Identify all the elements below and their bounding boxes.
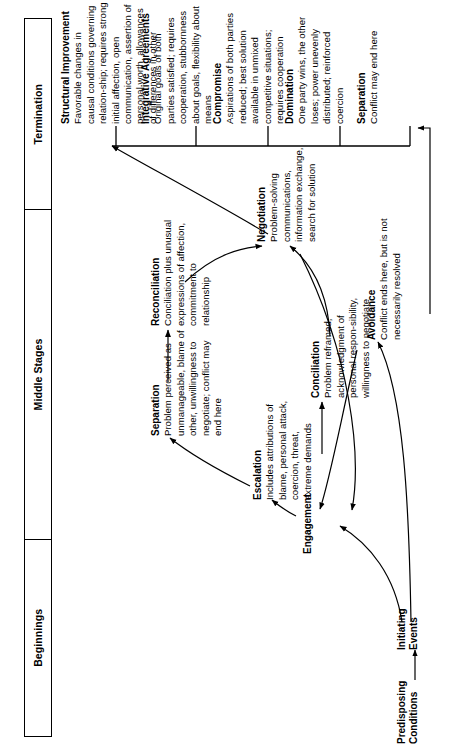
- node-escalation: Escalation Includes attributions of blam…: [252, 400, 314, 500]
- arrow-engagement-to-escalation: [272, 500, 296, 516]
- negotiation-body: Problem-solving communications, informat…: [268, 130, 318, 242]
- arrow-initiating-to-engagement: [340, 526, 402, 622]
- node-domination: Domination One party wins, the other los…: [284, 2, 346, 124]
- integrative-agreements-title: Integrative Agreements: [140, 2, 152, 124]
- node-initiating-events: Initiating Events: [396, 592, 421, 650]
- avoidance-title: Avoidance: [366, 190, 378, 340]
- integrative-agreements-body: Original goals of both parties satisfied…: [152, 2, 214, 124]
- negotiation-title: Negotiation: [256, 130, 268, 242]
- node-conciliation: Conciliation Problem reframed, acknowled…: [310, 290, 372, 398]
- domination-body: One party wins, the other loses; power u…: [296, 2, 346, 124]
- escalation-body: Includes attributions of blame, personal…: [264, 400, 314, 500]
- conciliation-body: Problem reframed, acknowledgment of pers…: [322, 290, 372, 398]
- separation-termination-title: Separation: [356, 2, 368, 124]
- node-avoidance: Avoidance Conflict ends here, but is not…: [366, 190, 403, 340]
- initiating-line-2: Events: [408, 592, 420, 650]
- reconciliation-title: Reconciliation: [150, 214, 162, 326]
- node-integrative-agreements: Integrative Agreements Original goals of…: [140, 2, 214, 124]
- arrow-avoidance-to-separation-end: [418, 128, 430, 314]
- predisposing-line-2: Conditions: [408, 682, 420, 744]
- arrow-escalation-to-separation: [170, 438, 250, 486]
- node-separation-middle: Separation Problem perceived as unmanage…: [150, 324, 224, 436]
- compromise-body: Aspirations of both parties reduced; bes…: [224, 2, 286, 124]
- conflict-process-diagram: Beginnings Middle Stages Termination: [0, 0, 465, 754]
- rotated-diagram-wrapper: Beginnings Middle Stages Termination: [0, 0, 465, 754]
- avoidance-body: Conflict ends here, but is not necessari…: [378, 190, 403, 340]
- domination-title: Domination: [284, 2, 296, 124]
- conciliation-title: Conciliation: [310, 290, 322, 398]
- node-predisposing-conditions: Predisposing Conditions: [396, 682, 421, 744]
- initiating-line-1: Initiating: [396, 592, 408, 650]
- node-reconciliation: Reconciliation Conciliation plus unusual…: [150, 214, 212, 326]
- separation-middle-body: Problem perceived as unmanageable, blame…: [162, 324, 224, 436]
- arrow-initiating-to-avoidance: [378, 342, 411, 622]
- node-separation-termination: Separation Conflict may end here: [356, 2, 381, 124]
- separation-middle-title: Separation: [150, 324, 162, 436]
- node-compromise: Compromise Aspirations of both parties r…: [212, 2, 286, 124]
- predisposing-line-1: Predisposing: [396, 682, 408, 744]
- reconciliation-body: Conciliation plus unusual expressions of…: [162, 214, 212, 326]
- compromise-title: Compromise: [212, 2, 224, 124]
- node-negotiation: Negotiation Problem-solving communicatio…: [256, 130, 318, 242]
- separation-termination-body: Conflict may end here: [368, 2, 380, 124]
- escalation-title: Escalation: [252, 400, 264, 500]
- structural-improvement-title: Structural Improvement: [60, 2, 72, 124]
